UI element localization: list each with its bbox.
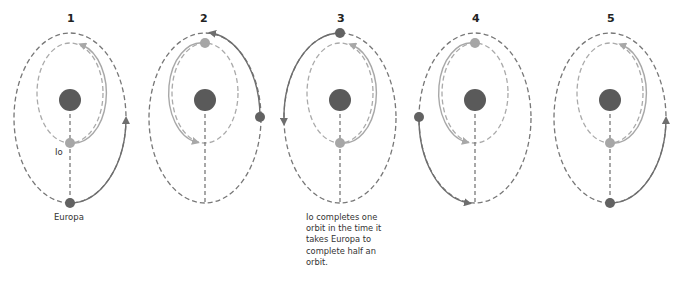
europa-path-arrow — [610, 120, 666, 203]
panel-number: 3 — [337, 12, 345, 25]
europa-moon — [414, 112, 424, 122]
europa-path-arrow — [284, 33, 340, 122]
panel-number: 5 — [607, 12, 615, 25]
panel-1: 1 — [14, 12, 126, 208]
io-moon — [605, 138, 615, 148]
europa-moon — [65, 198, 75, 208]
europa-moon — [255, 112, 265, 122]
jupiter — [599, 89, 621, 111]
jupiter — [194, 89, 216, 111]
panel-number: 4 — [472, 12, 480, 25]
caption: Io completes one orbit in the time it ta… — [306, 212, 386, 268]
io-label: Io — [55, 147, 63, 158]
io-moon — [200, 38, 210, 48]
panel-4: 4 — [414, 12, 531, 203]
europa-label: Europa — [54, 212, 84, 223]
io-moon — [65, 138, 75, 148]
io-moon — [470, 38, 480, 48]
panel-5: 5 — [554, 12, 666, 208]
europa-path-arrow — [70, 120, 126, 203]
jupiter — [464, 89, 486, 111]
io-moon — [335, 138, 345, 148]
europa-moon — [335, 28, 345, 38]
europa-path-arrow — [419, 117, 468, 203]
panel-number: 2 — [200, 12, 208, 25]
panel-3: 3 — [284, 12, 396, 203]
jupiter — [59, 89, 81, 111]
panel-number: 1 — [67, 12, 75, 25]
jupiter — [329, 89, 351, 111]
europa-moon — [605, 198, 615, 208]
panel-2: 2 — [149, 12, 265, 203]
